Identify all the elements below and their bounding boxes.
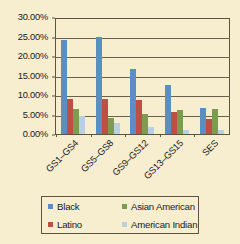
legend-label: Asian American xyxy=(131,201,195,212)
bar-group xyxy=(91,19,126,134)
bar-groups xyxy=(56,19,229,134)
y-axis: 0.00%5.00%10.00%15.00%20.00%25.00%30.00% xyxy=(0,18,52,135)
legend-item[interactable]: Asian American xyxy=(122,201,206,212)
bar xyxy=(79,116,85,134)
bar-group xyxy=(194,19,229,134)
bar-chart: 0.00%5.00%10.00%15.00%20.00%25.00%30.00%… xyxy=(0,0,240,244)
y-axis-tick-label: 25.00% xyxy=(18,33,48,42)
y-axis-tick-label: 20.00% xyxy=(18,52,48,61)
legend-swatch-icon xyxy=(122,222,127,227)
bar-group xyxy=(125,19,160,134)
chart-legend: BlackAsian AmericanLatinoAmerican Indian xyxy=(41,196,199,234)
y-axis-tick-label: 30.00% xyxy=(18,13,48,22)
y-axis-tick-label: 0.00% xyxy=(23,130,48,139)
legend-item[interactable]: Black xyxy=(48,201,122,212)
x-axis: GS1–GS4GS5–GS8GS9–GS12GS13–GS15SES xyxy=(55,136,230,186)
x-axis-label-slot: GS13–GS15 xyxy=(160,136,195,186)
legend-item[interactable]: Latino xyxy=(48,219,122,230)
bar-group xyxy=(56,19,91,134)
bar xyxy=(114,123,120,135)
legend-swatch-icon xyxy=(48,204,53,209)
legend-swatch-icon xyxy=(122,204,127,209)
legend-item[interactable]: American Indian xyxy=(122,219,206,230)
x-axis-tick-label: SES xyxy=(200,138,220,158)
legend-label: Latino xyxy=(57,219,82,230)
bar xyxy=(148,127,154,134)
bar xyxy=(218,130,224,134)
x-axis-tick-label: GS1–GS4 xyxy=(44,138,80,174)
bar xyxy=(183,130,189,134)
legend-label: American Indian xyxy=(131,219,197,230)
legend-swatch-icon xyxy=(48,222,53,227)
bar-group xyxy=(160,19,195,134)
y-axis-tick-label: 10.00% xyxy=(18,91,48,100)
plot-area-wrapper xyxy=(55,18,230,135)
y-axis-tick-label: 15.00% xyxy=(18,72,48,81)
x-axis-label-slot: SES xyxy=(195,136,230,186)
y-axis-tick-label: 5.00% xyxy=(23,111,48,120)
legend-label: Black xyxy=(57,201,79,212)
